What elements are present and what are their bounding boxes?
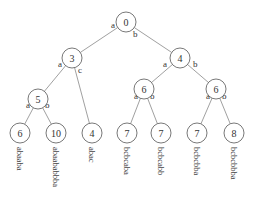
svg-text:6: 6 [142,84,147,95]
svg-text:5: 5 [36,94,41,105]
tree-node: 6 [134,79,154,99]
leaf-string-label: abaaba [15,147,25,171]
tree-edge [131,98,141,123]
tree-node: 0 [116,12,136,32]
tree-node: 7 [117,123,137,143]
tree-edge [43,108,52,124]
svg-text:0: 0 [124,17,129,28]
tree-node: 6 [10,123,30,143]
edge-label: a [58,59,62,69]
leaf-string-label: bcbcaba [122,147,132,175]
svg-text:7: 7 [125,128,130,139]
svg-text:4: 4 [90,128,95,139]
tree-node: 5 [28,89,48,109]
svg-text:4: 4 [178,53,183,64]
tree-edge [201,98,212,124]
tree-edge [134,28,171,53]
tree-edge [80,28,117,53]
tree-node: 4 [82,123,102,143]
edge-label: b [193,59,198,69]
edge-label: a [111,20,115,30]
edge-label: b [133,29,138,39]
tree-edge [44,66,65,92]
tree-node: 7 [187,123,207,143]
edge-label: a [163,59,167,69]
leaf-string-label: bcbcabb [156,147,166,175]
tree-node: 3 [62,48,82,68]
tree-edge [25,108,34,124]
tree-node: 6 [206,79,226,99]
svg-text:7: 7 [159,128,164,139]
tree-edge [220,98,230,123]
svg-text:10: 10 [51,128,61,139]
leaf-string-label: bcbcbbba [229,147,239,180]
leaf-string-label: abac [87,147,97,163]
tree-edge [148,98,158,123]
svg-text:6: 6 [18,128,23,139]
leaf-string-label: abaababbba [51,147,61,187]
tree-edge [75,68,90,124]
edge-label: c [78,65,82,75]
tree-diagram: abacabababab0345666abaaba10abaababbba4ab… [0,0,253,200]
svg-text:6: 6 [214,84,219,95]
tree-edge [152,65,173,83]
svg-text:7: 7 [195,128,200,139]
svg-text:8: 8 [232,128,237,139]
tree-edge [188,65,209,83]
tree-node: 10 [46,123,66,143]
tree-node: 7 [151,123,171,143]
leaf-string-label: bcbcbba [192,147,202,176]
tree-node: 8 [224,123,244,143]
svg-text:3: 3 [70,53,75,64]
tree-node: 4 [170,48,190,68]
